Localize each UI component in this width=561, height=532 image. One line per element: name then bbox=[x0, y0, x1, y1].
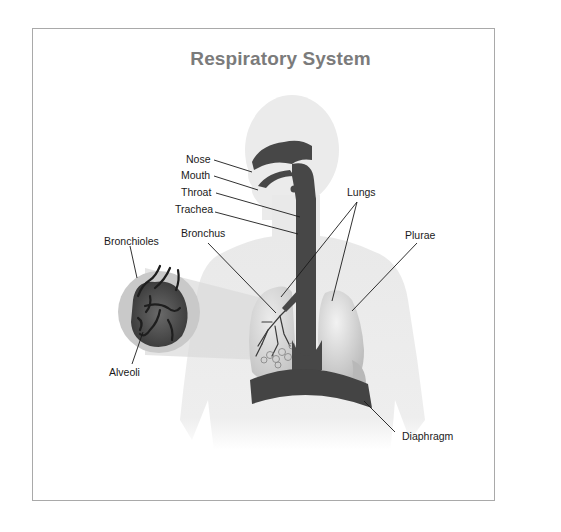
trachea bbox=[296, 196, 316, 356]
label-mouth: Mouth bbox=[181, 169, 210, 181]
label-alveoli: Alveoli bbox=[109, 366, 140, 378]
label-lungs: Lungs bbox=[347, 186, 376, 198]
label-trachea: Trachea bbox=[175, 203, 213, 215]
label-diaphragm: Diaphragm bbox=[402, 430, 453, 442]
anatomy-illustration bbox=[0, 0, 561, 532]
leader-bronchioles bbox=[130, 246, 137, 278]
label-bronchus: Bronchus bbox=[181, 227, 225, 239]
epiglottis bbox=[291, 186, 298, 193]
label-throat: Throat bbox=[181, 186, 211, 198]
label-plurae: Plurae bbox=[405, 229, 435, 241]
label-nose: Nose bbox=[186, 153, 211, 165]
label-bronchioles: Bronchioles bbox=[104, 235, 159, 247]
